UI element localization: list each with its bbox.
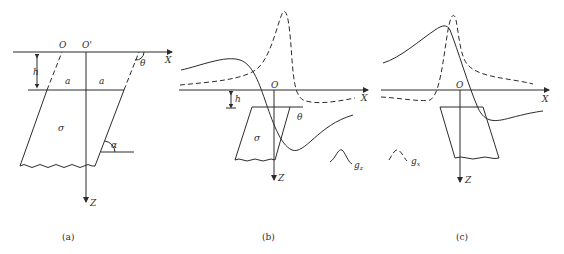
legend-dashed-symbol: gx bbox=[411, 156, 421, 167]
curve-gz-solid bbox=[383, 26, 543, 121]
dike-bottom-wavy bbox=[20, 165, 95, 168]
panel-b: gz O X Z h σ θ (b) bbox=[179, 12, 368, 242]
legend-solid-line bbox=[330, 150, 352, 164]
label-dip-angle: α bbox=[111, 140, 117, 150]
caption-c: (c) bbox=[456, 232, 468, 242]
curve-gz-solid bbox=[181, 59, 353, 151]
label-z-axis: Z bbox=[89, 198, 97, 208]
label-x-axis: X bbox=[164, 55, 172, 65]
dike-right-edge bbox=[95, 90, 124, 166]
label-half-width-right: a bbox=[99, 76, 104, 86]
label-x-axis: X bbox=[360, 93, 368, 103]
dike-bottom-wavy bbox=[235, 159, 275, 161]
panel-c: gx O X Z (c) bbox=[381, 15, 549, 242]
left-extension-dashed bbox=[47, 52, 62, 90]
label-z-axis: Z bbox=[464, 175, 472, 185]
label-theta: θ bbox=[297, 112, 303, 122]
dike-left-edge bbox=[440, 107, 455, 158]
label-origin-prime: O' bbox=[82, 40, 92, 50]
curve-gx-dashed bbox=[180, 12, 355, 103]
dike-left-edge bbox=[235, 107, 252, 160]
caption-b: (b) bbox=[262, 232, 275, 242]
legend-dashed-line bbox=[389, 150, 407, 161]
label-density: σ bbox=[58, 123, 65, 133]
right-extension-dashed bbox=[124, 52, 139, 90]
label-theta: θ bbox=[140, 58, 146, 68]
dike-bottom-wavy bbox=[455, 157, 499, 159]
label-x-axis: X bbox=[541, 94, 549, 104]
label-density: σ bbox=[254, 133, 261, 143]
label-origin: O bbox=[59, 40, 67, 50]
label-origin: O bbox=[271, 80, 279, 90]
diagram-canvas: O O' X Z h a a σ α θ (a) gz O X Z h σ θ bbox=[0, 0, 564, 254]
label-depth: h bbox=[235, 94, 241, 104]
label-origin: O bbox=[456, 80, 464, 90]
legend-solid-symbol: gz bbox=[354, 160, 364, 171]
caption-a: (a) bbox=[62, 232, 74, 242]
label-z-axis: Z bbox=[277, 173, 285, 183]
dike-right-edge bbox=[275, 107, 290, 160]
dike-left-edge bbox=[20, 90, 47, 166]
label-half-width-left: a bbox=[65, 76, 70, 86]
panel-a: O O' X Z h a a σ α θ (a) bbox=[13, 40, 172, 242]
label-depth: h bbox=[33, 67, 39, 77]
dike-right-edge bbox=[483, 107, 499, 158]
